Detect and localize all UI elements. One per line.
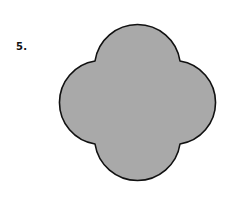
quatrefoil-shape [59,25,215,181]
quatrefoil-figure [0,0,238,197]
